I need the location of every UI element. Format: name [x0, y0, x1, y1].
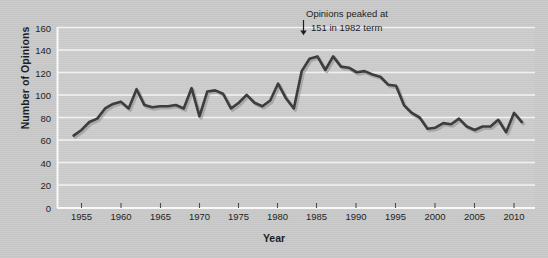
- x-tick-labels: 1955 1960 1965 1970 1975 1980 1985 1990 …: [71, 211, 525, 222]
- x-tick-1985: 1985: [306, 211, 327, 222]
- x-tick-1960: 1960: [110, 211, 131, 222]
- x-tick-2010: 2010: [503, 211, 524, 222]
- annotation-line-1: Opinions peaked at: [306, 8, 388, 19]
- x-tick-1995: 1995: [385, 211, 406, 222]
- x-tick-1970: 1970: [189, 211, 210, 222]
- y-tick-40: 40: [40, 158, 51, 169]
- x-tick-1980: 1980: [267, 211, 288, 222]
- y-axis-label-wrapper: Number of Opinions: [19, 8, 31, 148]
- x-tick-1975: 1975: [228, 211, 249, 222]
- peak-annotation: Opinions peaked at 151 in 1982 term: [300, 8, 388, 35]
- y-tick-120: 120: [35, 68, 51, 79]
- x-tick-1965: 1965: [150, 211, 171, 222]
- y-axis-label: Number of Opinions: [19, 27, 31, 130]
- y-tick-labels: 0 20 40 60 80 100 120 140 160: [35, 23, 51, 214]
- chart-figure: 0 20 40 60 80 100 120 140 160: [0, 0, 548, 258]
- x-tick-2000: 2000: [424, 211, 445, 222]
- y-tick-0: 0: [46, 203, 51, 214]
- x-tick-1955: 1955: [71, 211, 92, 222]
- y-tick-60: 60: [40, 135, 51, 146]
- y-tick-140: 140: [35, 45, 51, 56]
- x-tick-1990: 1990: [345, 211, 366, 222]
- y-tick-100: 100: [35, 90, 51, 101]
- x-axis-label: Year: [0, 232, 548, 244]
- y-tick-160: 160: [35, 23, 51, 34]
- x-tick-2005: 2005: [464, 211, 485, 222]
- line-chart-svg: 0 20 40 60 80 100 120 140 160: [0, 0, 548, 258]
- y-tick-80: 80: [40, 113, 51, 124]
- y-tick-20: 20: [40, 180, 51, 191]
- annotation-line-2: 151 in 1982 term: [311, 22, 382, 33]
